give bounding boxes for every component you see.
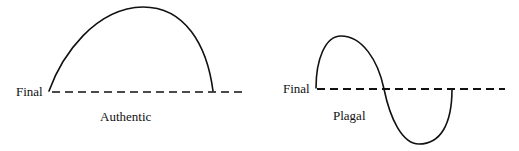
plagal-final-label: Final <box>283 81 310 96</box>
authentic-panel: Final Authentic <box>16 7 247 124</box>
plagal-caption: Plagal <box>333 108 366 123</box>
authentic-final-label: Final <box>16 84 43 99</box>
plagal-s-curve <box>316 36 452 144</box>
mode-range-diagram: Final Authentic Final Plagal <box>0 0 519 151</box>
authentic-arch-curve <box>49 7 213 91</box>
plagal-panel: Final Plagal <box>283 36 505 144</box>
authentic-caption: Authentic <box>100 109 151 124</box>
